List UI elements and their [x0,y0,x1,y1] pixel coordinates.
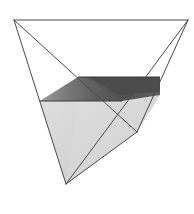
tetrahedron-lower-body [40,95,160,184]
edge-top-right-to-right [137,20,188,132]
figure-root: Tetrahedron with horizontal liquid cross… [0,0,194,214]
liquid-surface [40,77,160,101]
tetrahedron-diagram [0,0,194,214]
